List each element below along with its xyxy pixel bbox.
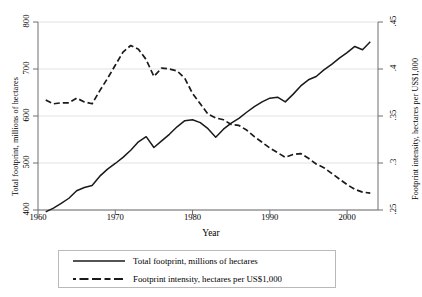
y-tick-right-.25: .25 <box>388 198 398 220</box>
x-tick-1960: 1960 <box>21 212 55 222</box>
x-tick-1980: 1980 <box>176 212 210 222</box>
legend-item-footprint-intensity: Footprint intensity, hectares per US$1,0… <box>59 269 337 288</box>
x-tick-2000: 2000 <box>330 212 364 222</box>
x-axis-title: Year <box>0 228 422 238</box>
y-axis-right-title: Footprint intensity, hectares per US$1,0… <box>411 58 420 200</box>
series-line-0 <box>46 42 371 212</box>
y-axis-left-title: Total footprint, millions of hectares <box>11 77 20 196</box>
y-tick-left-800: 800 <box>21 9 31 33</box>
legend-item-total-footprint: Total footprint, millions of hectares <box>59 251 337 270</box>
chart-figure: Total footprint, millions of hectares Fo… <box>0 0 422 297</box>
y-tick-left-600: 600 <box>21 103 31 127</box>
chart-legend: Total footprint, millions of hectares Fo… <box>58 250 336 288</box>
y-tick-right-.35: .35 <box>388 104 398 126</box>
y-tick-left-700: 700 <box>21 56 31 80</box>
legend-key-solid-line <box>71 255 127 267</box>
x-tick-1970: 1970 <box>98 212 132 222</box>
legend-key-dashed-line <box>71 273 127 285</box>
axis-ticks <box>33 22 383 215</box>
legend-label-total-footprint: Total footprint, millions of hectares <box>133 256 258 266</box>
x-tick-1990: 1990 <box>253 212 287 222</box>
series-paths <box>46 42 371 212</box>
series-line-1 <box>46 46 371 194</box>
y-tick-right-.3: .3 <box>388 151 398 173</box>
y-tick-right-.45: .45 <box>388 10 398 32</box>
y-tick-right-.4: .4 <box>388 57 398 79</box>
gridlines <box>38 22 378 210</box>
legend-label-footprint-intensity: Footprint intensity, hectares per US$1,0… <box>133 274 282 284</box>
y-tick-left-500: 500 <box>21 150 31 174</box>
